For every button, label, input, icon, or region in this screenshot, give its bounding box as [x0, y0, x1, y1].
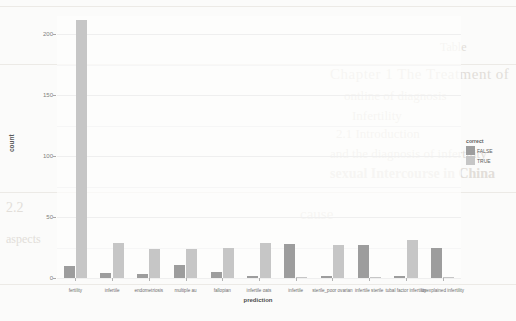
x-axis-tick-mark [186, 278, 187, 281]
bar-chart: 050100150200 count fertilityinfertileend… [0, 0, 516, 321]
legend: correct FALSETRUE [466, 138, 493, 166]
y-axis-label: count [8, 134, 15, 152]
bar-false [394, 276, 405, 278]
bar-false [100, 273, 111, 278]
y-axis-tick-mark [53, 217, 56, 218]
bar-true [186, 249, 197, 278]
x-axis-tick-label: fallopian [214, 288, 231, 293]
y-axis-tick-mark [53, 34, 56, 35]
gridline-major [57, 34, 461, 35]
x-axis-tick-mark [222, 278, 223, 281]
y-axis-tick-mark [53, 95, 56, 96]
gridline-major [57, 156, 461, 157]
legend-title: correct [466, 138, 493, 144]
bar-true [260, 243, 271, 278]
bar-true [443, 277, 454, 278]
x-axis-tick-label: multiple au [174, 288, 196, 293]
legend-label: FALSE [477, 148, 493, 154]
bar-false [211, 272, 222, 278]
x-axis-tick-label: fertility [69, 288, 82, 293]
y-axis-tick-label: 200 [43, 31, 53, 37]
x-axis-tick-label: sterile_poor ovarian [312, 288, 352, 293]
x-axis-tick-label: infertile [105, 288, 120, 293]
bar-false [431, 248, 442, 278]
legend-swatch-true [466, 156, 475, 165]
x-axis-tick-label: infertile sterile [355, 288, 383, 293]
y-axis-tick-label: 50 [46, 214, 53, 220]
x-axis-tick-mark [259, 278, 260, 281]
x-axis-tick-label: unexplained infertility [421, 288, 464, 293]
bar-false [358, 245, 369, 278]
bar-true [370, 277, 381, 278]
y-axis-tick-mark [53, 278, 56, 279]
y-axis-tick-mark [53, 156, 56, 157]
legend-item[interactable]: TRUE [466, 156, 493, 165]
x-axis-tick-mark [75, 278, 76, 281]
x-axis-label: prediction [0, 297, 516, 303]
bar-true [333, 245, 344, 278]
bar-true [407, 240, 418, 278]
legend-swatch-false [466, 146, 475, 155]
gridline-major [57, 95, 461, 96]
y-axis-tick-label: 150 [43, 92, 53, 98]
x-axis-tick-mark [149, 278, 150, 281]
x-axis-tick-label: infertile [288, 288, 303, 293]
gridline-minor [57, 126, 461, 127]
bar-true [113, 243, 124, 278]
x-axis-tick-mark [112, 278, 113, 281]
plot-panel [57, 16, 461, 278]
y-axis-tick-label: 100 [43, 153, 53, 159]
x-axis-tick-mark [332, 278, 333, 281]
x-axis-tick-mark [443, 278, 444, 281]
bar-false [284, 244, 295, 278]
legend-item[interactable]: FALSE [466, 146, 493, 155]
bar-true [76, 20, 87, 278]
gridline-major [57, 217, 461, 218]
bar-true [296, 277, 307, 278]
bar-true [149, 249, 160, 278]
legend-items: FALSETRUE [466, 146, 493, 165]
x-axis-tick-mark [369, 278, 370, 281]
legend-label: TRUE [477, 158, 491, 164]
bar-false [247, 276, 258, 278]
bar-false [64, 266, 75, 278]
gridline-minor [57, 65, 461, 66]
bar-true [223, 248, 234, 278]
x-axis-tick-label: endometriosis [135, 288, 164, 293]
bar-false [174, 265, 185, 278]
x-axis-tick-mark [296, 278, 297, 281]
bar-false [321, 276, 332, 278]
bar-false [137, 274, 148, 278]
x-axis-tick-mark [406, 278, 407, 281]
x-axis-tick-label: infertile oats [247, 288, 272, 293]
gridline-minor [57, 187, 461, 188]
